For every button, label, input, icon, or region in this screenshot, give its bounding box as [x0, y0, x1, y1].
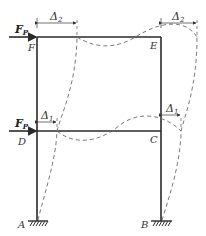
- frame-diagram: Δ2 Δ2 Δ1 Δ1 FP FP F E D C A B: [0, 0, 206, 236]
- label-delta1-bottom-right: Δ1: [165, 102, 178, 116]
- label-load-bottom: FP: [14, 117, 29, 131]
- node-label-D: D: [17, 136, 26, 147]
- deflected-column-A-D: [38, 131, 57, 220]
- label-delta1-bottom-left: Δ1: [40, 109, 53, 123]
- label-delta2-top-left: Δ2: [49, 10, 63, 24]
- label-load-top: FP: [14, 23, 29, 37]
- fixed-support-B: [151, 221, 172, 226]
- deflected-shape: [38, 24, 197, 220]
- deflected-beam-D-C: [57, 116, 181, 140]
- fixed-support-A: [28, 221, 48, 226]
- original-frame: [37, 37, 161, 221]
- node-label-B: B: [140, 219, 148, 230]
- node-label-E: E: [149, 40, 158, 51]
- deflected-column-D-F: [57, 37, 77, 131]
- deflected-beam-F-E: [77, 24, 197, 46]
- node-label-F: F: [27, 42, 36, 53]
- deflected-column-C-E: [181, 37, 197, 131]
- label-delta2-top-right: Δ2: [171, 10, 185, 24]
- node-label-C: C: [150, 134, 158, 145]
- deflected-column-B-C: [162, 131, 181, 220]
- node-label-A: A: [17, 219, 25, 230]
